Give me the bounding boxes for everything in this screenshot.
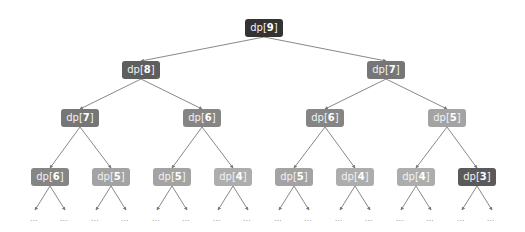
node-label-prefix: dp[ <box>188 112 205 123</box>
node-label-suffix: ] <box>487 171 491 182</box>
tree-node-dp-5: dp[5] <box>92 168 130 186</box>
tree-node-dp-6: dp[6] <box>306 109 344 127</box>
tree-node-dp-4: dp[4] <box>336 168 374 186</box>
leaf-continuation-arrow <box>279 186 294 210</box>
leaf-continuation-arrow <box>111 186 126 210</box>
node-label-index: 5 <box>450 112 457 123</box>
node-label-suffix: ] <box>60 171 64 182</box>
leaf-continuation-arrow <box>172 186 187 210</box>
node-label-index: 5 <box>114 171 121 182</box>
node-label-prefix: dp[ <box>158 171 175 182</box>
tree-node-dp-6: dp[6] <box>183 109 221 127</box>
node-label-prefix: dp[ <box>372 64 389 75</box>
tree-node-dp-5: dp[5] <box>428 109 466 127</box>
node-label-prefix: dp[ <box>219 171 236 182</box>
node-label-index: 6 <box>53 171 60 182</box>
node-label-suffix: ] <box>243 171 247 182</box>
node-label-suffix: ] <box>212 112 216 123</box>
ellipsis-placeholder: … <box>121 215 130 223</box>
node-label-index: 3 <box>480 171 487 182</box>
ellipsis-placeholder: … <box>335 215 344 223</box>
tree-node-dp-5: dp[5] <box>275 168 313 186</box>
ellipsis-placeholder: … <box>365 215 374 223</box>
tree-edge-arrow <box>141 37 264 61</box>
node-label-prefix: dp[ <box>402 171 419 182</box>
node-label-prefix: dp[ <box>280 171 297 182</box>
ellipsis-placeholder: … <box>60 215 69 223</box>
tree-node-dp-5: dp[5] <box>153 168 191 186</box>
tree-edge-arrow <box>202 127 233 168</box>
node-label-suffix: ] <box>396 64 400 75</box>
node-label-suffix: ] <box>335 112 339 123</box>
node-label-prefix: dp[ <box>36 171 53 182</box>
ellipsis-placeholder: … <box>152 215 161 223</box>
ellipsis-placeholder: … <box>182 215 191 223</box>
node-label-index: 9 <box>267 22 274 33</box>
tree-edge-arrow <box>264 37 386 61</box>
node-label-suffix: ] <box>304 171 308 182</box>
leaf-continuation-arrow <box>462 186 477 210</box>
node-label-suffix: ] <box>121 171 125 182</box>
node-label-index: 6 <box>328 112 335 123</box>
node-label-index: 5 <box>297 171 304 182</box>
node-label-suffix: ] <box>457 112 461 123</box>
recursion-tree-diagram: …………………………………………dp[9]dp[8]dp[7]dp[7]dp[6… <box>0 0 525 232</box>
node-label-prefix: dp[ <box>311 112 328 123</box>
node-label-index: 4 <box>358 171 365 182</box>
tree-edge-arrow <box>172 127 202 168</box>
leaf-continuation-arrow <box>96 186 111 210</box>
tree-node-dp-7: dp[7] <box>367 61 405 79</box>
node-label-index: 6 <box>205 112 212 123</box>
node-label-prefix: dp[ <box>463 171 480 182</box>
node-label-suffix: ] <box>426 171 430 182</box>
ellipsis-placeholder: … <box>243 215 252 223</box>
node-label-suffix: ] <box>274 22 278 33</box>
ellipsis-placeholder: … <box>274 215 283 223</box>
node-label-suffix: ] <box>90 112 94 123</box>
tree-node-dp-3: dp[3] <box>458 168 496 186</box>
ellipsis-placeholder: … <box>91 215 100 223</box>
leaf-continuation-arrow <box>477 186 492 210</box>
ellipsis-placeholder: … <box>304 215 313 223</box>
node-label-prefix: dp[ <box>341 171 358 182</box>
node-label-prefix: dp[ <box>433 112 450 123</box>
node-label-prefix: dp[ <box>66 112 83 123</box>
node-label-index: 5 <box>175 171 182 182</box>
node-label-index: 4 <box>419 171 426 182</box>
node-label-suffix: ] <box>365 171 369 182</box>
node-label-index: 8 <box>144 64 151 75</box>
ellipsis-placeholder: … <box>426 215 435 223</box>
tree-node-dp-9: dp[9] <box>245 19 283 37</box>
ellipsis-placeholder: … <box>487 215 496 223</box>
tree-edge-arrow <box>294 127 325 168</box>
tree-edge-arrow <box>416 127 447 168</box>
leaf-continuation-arrow <box>355 186 370 210</box>
tree-edge-arrow <box>386 79 447 109</box>
node-label-index: 7 <box>389 64 396 75</box>
tree-node-dp-7: dp[7] <box>61 109 99 127</box>
tree-edge-arrow <box>50 127 80 168</box>
tree-edge-arrow <box>325 127 355 168</box>
tree-node-dp-8: dp[8] <box>122 61 160 79</box>
leaf-continuation-arrow <box>35 186 50 210</box>
leaf-continuation-arrow <box>294 186 309 210</box>
tree-node-dp-4: dp[4] <box>397 168 435 186</box>
node-label-index: 7 <box>83 112 90 123</box>
ellipsis-placeholder: … <box>213 215 222 223</box>
leaf-continuation-arrow <box>416 186 431 210</box>
node-label-index: 4 <box>236 171 243 182</box>
node-label-suffix: ] <box>182 171 186 182</box>
leaf-continuation-arrow <box>340 186 355 210</box>
ellipsis-placeholder: … <box>457 215 466 223</box>
tree-edge-arrow <box>80 127 111 168</box>
leaf-continuation-arrow <box>401 186 416 210</box>
tree-node-dp-6: dp[6] <box>31 168 69 186</box>
tree-edge-arrow <box>447 127 477 168</box>
node-label-suffix: ] <box>151 64 155 75</box>
tree-node-dp-4: dp[4] <box>214 168 252 186</box>
tree-edge-arrow <box>325 79 386 109</box>
leaf-continuation-arrow <box>50 186 65 210</box>
tree-edge-arrow <box>141 79 202 109</box>
leaf-continuation-arrow <box>218 186 233 210</box>
tree-edge-arrow <box>80 79 141 109</box>
